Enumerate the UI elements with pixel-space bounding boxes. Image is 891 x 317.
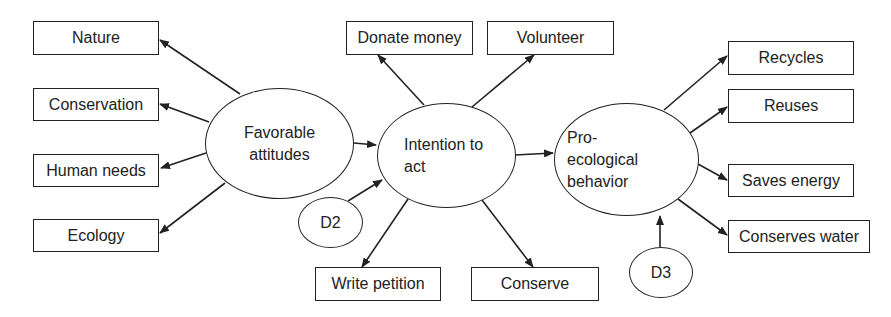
disturbance-d2: D2 bbox=[298, 197, 363, 248]
indicator-donate-money: Donate money bbox=[346, 21, 473, 55]
arrow-proeco-reuses bbox=[690, 107, 727, 133]
arrow-favorable-ecology bbox=[160, 183, 225, 233]
arrow-favorable-conservation bbox=[160, 104, 209, 122]
construct-label-line: ecological bbox=[567, 149, 638, 171]
arrow-proeco-saves-energy bbox=[698, 164, 727, 180]
construct-label-line: attitudes bbox=[244, 144, 315, 166]
arrow-intention-conserve bbox=[482, 200, 533, 267]
indicator-saves-energy: Saves energy bbox=[728, 164, 854, 197]
indicator-ecology: Ecology bbox=[33, 219, 159, 252]
arrow-proeco-conserves-water bbox=[678, 199, 727, 235]
construct-pro-ecological-behavior: Pro- ecological behavior bbox=[554, 103, 699, 216]
indicator-write-petition: Write petition bbox=[315, 267, 441, 301]
arrow-intention-volunteer bbox=[472, 55, 534, 107]
arrow-intention-petition bbox=[362, 199, 408, 267]
construct-label-line: Intention to bbox=[404, 134, 483, 156]
disturbance-d3: D3 bbox=[629, 247, 693, 298]
arrow-favorable-intention bbox=[354, 143, 376, 145]
indicator-reuses: Reuses bbox=[728, 89, 854, 123]
arrow-d2-intention bbox=[348, 180, 382, 201]
arrow-proeco-recycles bbox=[664, 56, 727, 110]
indicator-volunteer: Volunteer bbox=[487, 21, 614, 55]
disturbance-label: D3 bbox=[651, 262, 671, 284]
construct-favorable-attitudes: Favorable attitudes bbox=[205, 88, 354, 199]
arrow-favorable-human-needs bbox=[161, 153, 206, 168]
arrow-intention-proeco bbox=[515, 153, 553, 155]
construct-label-line: Pro- bbox=[567, 127, 638, 149]
indicator-human-needs: Human needs bbox=[33, 154, 159, 187]
construct-label-line: behavior bbox=[567, 171, 638, 193]
indicator-conserve: Conserve bbox=[471, 267, 599, 301]
construct-label-line: act bbox=[404, 156, 483, 178]
arrow-favorable-nature bbox=[160, 40, 240, 94]
disturbance-label: D2 bbox=[320, 212, 340, 234]
indicator-recycles: Recycles bbox=[728, 41, 854, 75]
indicator-conservation: Conservation bbox=[33, 88, 159, 121]
indicator-nature: Nature bbox=[33, 21, 159, 55]
indicator-conserves-water: Conserves water bbox=[728, 220, 870, 253]
construct-label-line: Favorable bbox=[244, 122, 315, 144]
construct-intention-to-act: Intention to act bbox=[377, 103, 516, 208]
arrow-intention-donate bbox=[378, 55, 424, 105]
